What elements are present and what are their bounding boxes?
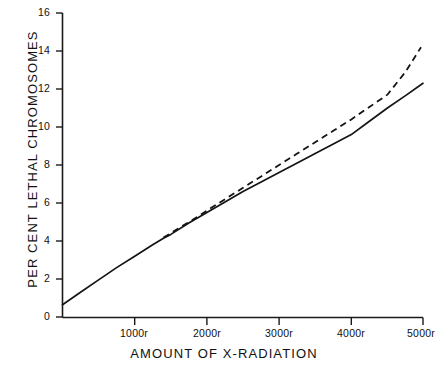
x-tick-label: 1000r	[104, 327, 164, 339]
x-axis-ticks	[135, 318, 423, 326]
x-tick-label: 2000r	[177, 327, 237, 339]
y-axis-title-wrapper: PER CENT LETHAL CHROMOSOMES	[23, 9, 41, 309]
series-line-extrapolated-linear	[164, 47, 422, 237]
x-tick-label: 3000r	[249, 327, 309, 339]
chart-figure: 16 14 12 10 8 6 4 2 0 1000r 2000r 3000r …	[0, 0, 448, 368]
series-line-observed-curve	[63, 83, 424, 304]
y-tick-label: 0	[26, 310, 50, 322]
y-axis-ticks	[56, 13, 63, 317]
x-tick-label: 4000r	[321, 327, 381, 339]
chart-plot-area	[0, 0, 448, 368]
x-axis-title: AMOUNT OF X-RADIATION	[0, 346, 448, 361]
x-tick-label: 5000r	[391, 327, 448, 339]
y-axis-title: PER CENT LETHAL CHROMOSOMES	[25, 30, 40, 287]
